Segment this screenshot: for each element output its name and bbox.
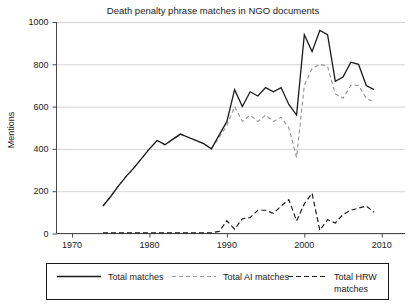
y-tick-label-1000: 1000: [28, 17, 48, 27]
y-axis-ticks: 02004006008001000: [28, 17, 56, 239]
legend-label-3-line2[interactable]: matches: [334, 284, 369, 294]
series-line-total-matches: [103, 30, 374, 206]
legend-label-1[interactable]: Total matches: [108, 272, 164, 282]
chart-container: Death penalty phrase matches in NGO docu…: [0, 0, 411, 308]
x-tick-label-1970: 1970: [62, 240, 82, 250]
legend-label-2[interactable]: Total AI matches: [223, 272, 290, 282]
y-tick-label-400: 400: [33, 144, 48, 154]
x-tick-label-1990: 1990: [217, 240, 237, 250]
y-axis-label: Mentions: [6, 111, 16, 148]
y-tick-label-600: 600: [33, 102, 48, 112]
y-tick-label-0: 0: [43, 229, 48, 239]
legend-label-3[interactable]: Total HRW: [334, 272, 377, 282]
series-line-total-ai-matches: [103, 64, 374, 206]
chart-figure: Death penalty phrase matches in NGO docu…: [0, 0, 411, 308]
chart-title: Death penalty phrase matches in NGO docu…: [107, 5, 320, 16]
x-tick-label-1980: 1980: [139, 240, 159, 250]
x-tick-label-2010: 2010: [372, 240, 392, 250]
gridlines: [57, 23, 406, 235]
series-line-total-hrw-matches: [103, 193, 374, 233]
x-axis-ticks: 19701980199020002010: [62, 234, 392, 250]
x-tick-label-2000: 2000: [294, 240, 314, 250]
y-tick-label-800: 800: [33, 60, 48, 70]
y-tick-label-200: 200: [33, 186, 48, 196]
data-series-layer: [103, 30, 374, 232]
